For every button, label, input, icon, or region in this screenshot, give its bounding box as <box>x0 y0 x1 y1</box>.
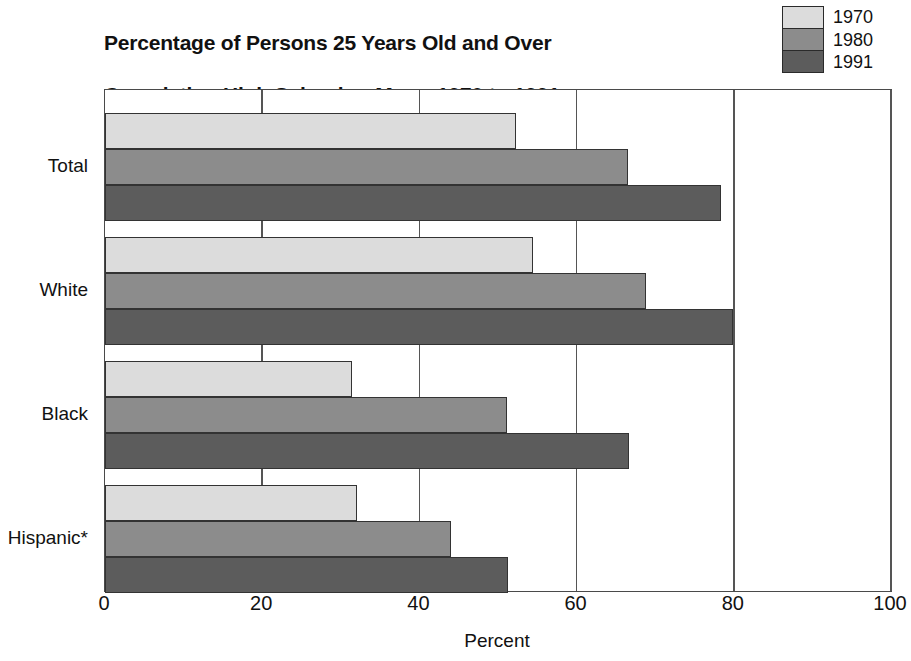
x-axis-title: Percent <box>104 630 890 652</box>
bar-total-1991 <box>105 185 721 221</box>
legend-swatch-1980 <box>783 28 823 50</box>
legend-label-stack: 1970 1980 1991 <box>833 6 873 74</box>
legend-label-1980: 1980 <box>833 29 873 52</box>
x-tick-label-60: 60 <box>564 592 586 615</box>
legend-swatch-1970 <box>783 7 823 28</box>
legend-swatch-1991 <box>783 50 823 72</box>
plot-area <box>104 89 892 592</box>
y-label-white: White <box>39 279 88 301</box>
bar-black-1970 <box>105 361 352 397</box>
bar-black-1980 <box>105 397 507 433</box>
bar-white-1991 <box>105 309 733 345</box>
bar-group-black <box>105 361 891 469</box>
y-label-hispanic: Hispanic* <box>8 527 88 549</box>
x-tick-label-40: 40 <box>407 592 429 615</box>
bar-hispanic-1991 <box>105 557 508 593</box>
x-tick-label-20: 20 <box>250 592 272 615</box>
bar-group-white <box>105 237 891 345</box>
bar-group-hispanic <box>105 485 891 593</box>
bar-hispanic-1970 <box>105 485 357 521</box>
x-tick-label-0: 0 <box>98 592 109 615</box>
chart-legend: 1970 1980 1991 <box>782 6 873 74</box>
bar-white-1980 <box>105 273 646 309</box>
y-label-black: Black <box>42 403 88 425</box>
legend-label-1970: 1970 <box>833 6 873 29</box>
y-axis-category-labels: TotalWhiteBlackHispanic* <box>0 89 96 590</box>
x-tick-label-80: 80 <box>722 592 744 615</box>
bar-white-1970 <box>105 237 533 273</box>
bar-total-1970 <box>105 113 516 149</box>
x-tick-label-100: 100 <box>873 592 906 615</box>
legend-label-1991: 1991 <box>833 51 873 74</box>
bar-group-total <box>105 113 891 221</box>
chart-title-line-1: Percentage of Persons 25 Years Old and O… <box>104 31 551 54</box>
bar-hispanic-1980 <box>105 521 451 557</box>
legend-swatch-stack <box>782 6 824 73</box>
y-label-total: Total <box>48 155 88 177</box>
bars-layer <box>105 90 891 591</box>
bar-black-1991 <box>105 433 629 469</box>
bar-total-1980 <box>105 149 628 185</box>
x-axis-tick-labels: 020406080100 <box>104 592 890 622</box>
